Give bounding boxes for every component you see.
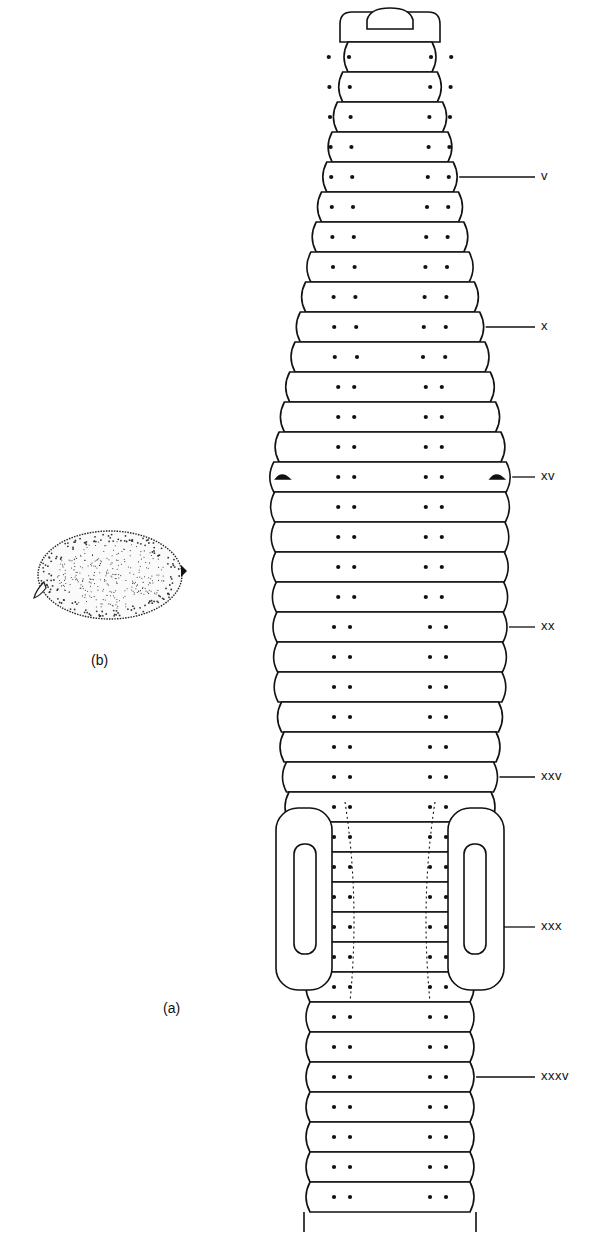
seta-dot [350,175,354,179]
seta-dot [428,625,432,629]
seta-dot [444,745,448,749]
seta-dot [336,445,340,449]
seta-dot [336,505,340,509]
seta-dot [444,805,448,809]
panel-b-label: (b) [91,652,108,668]
seta-dot [428,955,432,959]
seta-dot [444,1015,448,1019]
body-segment [272,552,508,582]
seta-dot [352,385,356,389]
body-segment [273,612,507,642]
seta-dot [348,1045,352,1049]
seta-dot [353,265,357,269]
seta-dot [427,115,431,119]
body-segment [306,1122,474,1152]
body-segment [306,1002,474,1032]
seta-dot [348,805,352,809]
seta-dot [428,1105,432,1109]
seta-dot [336,475,340,479]
seta-dot [440,595,444,599]
seta-dot [351,205,355,209]
body-segment [286,372,495,402]
seta-dot [428,925,432,929]
seta-dot [332,745,336,749]
seta-dot [428,1195,432,1199]
seta-dot [348,1015,352,1019]
seta-dot [348,1105,352,1109]
segment-label-v: v [541,168,548,183]
seta-dot [444,775,448,779]
seta-dot [332,655,336,659]
body-segment [280,732,500,762]
seta-dot [348,775,352,779]
seta-dot [329,145,333,149]
seta-dot [428,85,432,89]
seta-dot [332,1195,336,1199]
seta-dot [336,385,340,389]
seta-dot [426,175,430,179]
body-segment [275,432,505,462]
tubercula-pubertatis [464,844,486,954]
body-segment [274,642,507,672]
body-segment [271,522,509,552]
seta-dot [352,235,356,239]
seta-dot [352,595,356,599]
seta-dot [443,355,447,359]
seta-dot [348,745,352,749]
seta-dot [428,865,432,869]
cocoon-drawing [34,531,187,619]
seta-dot [444,295,448,299]
seta-dot [440,385,444,389]
seta-dot [449,85,453,89]
seta-dot [332,805,336,809]
seta-dot [423,265,427,269]
seta-dot [327,55,331,59]
seta-dot [428,1165,432,1169]
body-segment [306,1032,474,1062]
seta-dot [348,85,352,89]
seta-dot [348,1165,352,1169]
segment-label-x: x [541,318,548,333]
body-segment [306,1152,474,1182]
body-segment [318,192,463,222]
seta-dot [428,1075,432,1079]
seta-dot [348,715,352,719]
seta-dot [348,1075,352,1079]
seta-dot [424,475,428,479]
seta-dot [444,1165,448,1169]
seta-dot [424,505,428,509]
seta-dot [353,295,357,299]
seta-dot [427,145,431,149]
seta-dot [336,415,340,419]
seta-dot [332,1075,336,1079]
seta-dot [352,505,356,509]
seta-dot [444,685,448,689]
seta-dot [336,535,340,539]
seta-dot [428,685,432,689]
seta-dot [428,655,432,659]
seta-dot [348,1135,352,1139]
seta-dot [444,1135,448,1139]
segment-label-xxv: xxv [541,768,562,783]
tubercula-pubertatis [294,844,316,954]
seta-dot [444,715,448,719]
seta-dot [440,565,444,569]
seta-dot [349,115,353,119]
seta-dot [349,145,353,149]
earthworm-figure [0,0,616,1240]
body-segment [328,132,452,162]
body-segment [271,492,510,522]
seta-dot [421,355,425,359]
seta-dot [352,535,356,539]
seta-dot [348,685,352,689]
seta-dot [327,85,331,89]
seta-dot [444,985,448,989]
seta-dot [444,655,448,659]
seta-dot [424,385,428,389]
seta-dot [444,325,448,329]
seta-dot [352,565,356,569]
segment-label-xxx: xxx [541,918,562,933]
seta-dot [428,775,432,779]
seta-dot [446,235,450,239]
body-segment [306,1182,474,1212]
